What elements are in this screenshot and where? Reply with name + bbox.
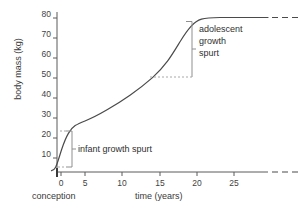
adolescent-growth-spurt-label-line2: growth: [199, 36, 226, 47]
growth-curve-chart: 80 70 60 50 40 30 20 10 0 5 10 15 20 25 …: [0, 0, 304, 210]
y-tick-label-70: 70: [34, 30, 51, 39]
y-tick-label-50: 50: [34, 70, 51, 79]
adolescent-growth-spurt-label-line3: spurt: [199, 48, 219, 59]
conception-label: conception: [32, 192, 76, 201]
x-axis-title: time (years): [135, 192, 183, 201]
x-tick-label-15: 15: [152, 179, 168, 188]
y-tick-label-10: 10: [34, 150, 51, 159]
x-tick-label-5: 5: [79, 179, 91, 188]
x-tick-label-10: 10: [114, 179, 130, 188]
y-axis-ticks: [53, 18, 57, 158]
adolescent-growth-spurt-label-line1: adolescent: [199, 24, 243, 35]
adolescent-growth-spurt-bracket: [150, 22, 196, 78]
x-tick-label-25: 25: [226, 179, 242, 188]
y-tick-label-60: 60: [34, 50, 51, 59]
y-axis-title-text: body mass (kg): [13, 38, 23, 100]
y-tick-label-20: 20: [34, 130, 51, 139]
y-tick-label-30: 30: [34, 110, 51, 119]
x-tick-label-0: 0: [55, 179, 67, 188]
y-tick-label-40: 40: [34, 90, 51, 99]
infant-growth-spurt-label: infant growth spurt: [78, 144, 152, 155]
y-axis-title: body mass (kg): [7, 29, 21, 109]
x-axis-ticks: [61, 172, 234, 176]
x-tick-label-20: 20: [189, 179, 205, 188]
y-tick-label-80: 80: [34, 10, 51, 19]
